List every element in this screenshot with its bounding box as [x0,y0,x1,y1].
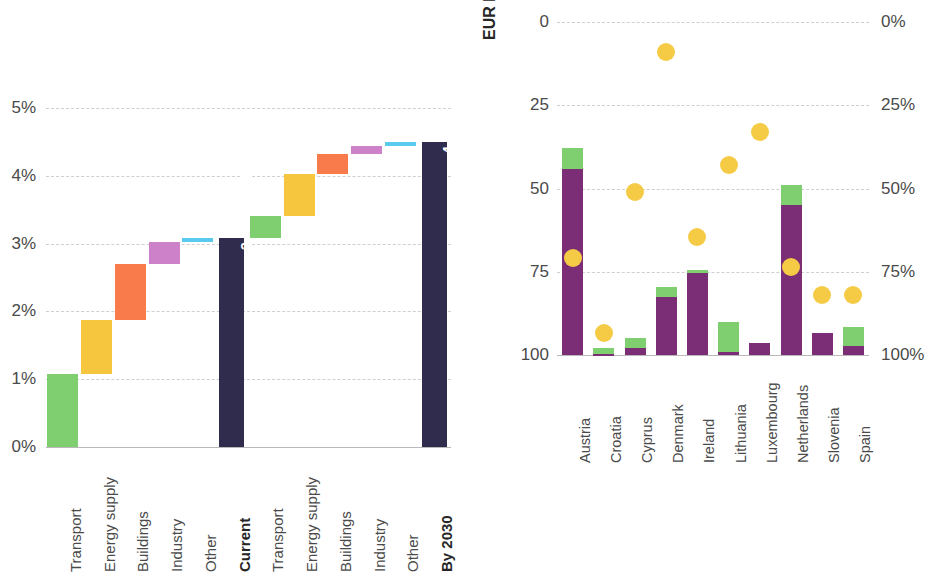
waterfall-y-tick: 5% [0,99,36,116]
waterfall-delta-bar [149,242,180,264]
waterfall-delta-bar [115,264,146,320]
waterfall-delta-bar [47,374,78,447]
right-chart-x-label-austria: Austria [578,418,593,463]
share-of-total-dot [564,249,582,267]
bar-segment-public-investment [656,297,677,355]
share-of-total-dot [751,123,769,141]
bar-segment-eu-funds [593,348,614,354]
waterfall-delta-bar [317,154,348,174]
waterfall-y-tick: 4% [0,167,36,184]
bar-segment-public-investment [812,333,833,355]
right-chart-right-tick: 50% [881,180,915,197]
waterfall-x-label-other: Other [203,534,218,572]
bar-segment-eu-funds [687,270,708,273]
share-of-total-dot [720,156,738,174]
share-of-total-dot [626,183,644,201]
right-chart-left-tick: 50 [497,180,549,197]
bar-segment-eu-funds [656,287,677,297]
right-chart-right-tick: 25% [881,96,915,113]
waterfall-x-label-buildings: Buildings [135,511,150,572]
right-chart-right-tick: 75% [881,263,915,280]
waterfall-x-label-transport: Transport [270,508,285,572]
waterfall-y-tick: 0% [0,438,36,455]
waterfall-delta-bar [385,142,416,146]
right-chart-x-label-netherlands: Netherlands [796,385,811,463]
share-of-total-dot [688,228,706,246]
right-chart-plot-area [557,22,869,355]
share-of-total-dot [844,286,862,304]
bar-segment-public-investment [718,352,739,355]
bar-segment-public-investment [781,205,802,355]
bar-segment-eu-funds [562,148,583,169]
right-chart-x-label-croatia: Croatia [609,416,624,463]
share-of-total-dot [782,258,800,276]
right-chart-x-label-ireland: Ireland [702,419,717,463]
waterfall-y-tick: 3% [0,235,36,252]
waterfall-x-label-transport: Transport [68,508,83,572]
bar-segment-public-investment [749,343,770,355]
share-of-total-dot [595,324,613,342]
bar-segment-public-investment [687,273,708,355]
waterfall-gridline [46,447,451,448]
bar-segment-eu-funds [843,327,864,346]
right-chart-x-label-denmark: Denmark [671,404,686,463]
waterfall-x-label-energy-supply: Energy supply [304,477,319,572]
right-chart-left-tick: 0 [497,13,549,30]
waterfall-delta-bar [351,146,382,154]
right-chart-left-tick: 100 [497,346,549,363]
waterfall-x-label-energy-supply: Energy supply [102,477,117,572]
bar-segment-eu-funds [718,322,739,351]
country-investment-chart-panel: EUR billion 1007550250 100%75%50%25%0% A… [475,0,950,581]
bar-segment-public-investment [625,348,646,355]
waterfall-x-label-current: Current [237,518,252,572]
waterfall-y-tick: 1% [0,370,36,387]
waterfall-chart-panel: 0%1%2%3%4%5% 3.1% of GDP4.5% of GDP Tran… [0,0,475,581]
right-chart-right-tick: 0% [881,13,906,30]
waterfall-delta-bar [284,174,315,216]
right-chart-x-label-slovenia: Slovenia [827,407,842,463]
waterfall-delta-bar [250,216,281,238]
waterfall-y-tick: 2% [0,302,36,319]
right-chart-left-tick: 25 [497,96,549,113]
right-chart-left-tick: 75 [497,263,549,280]
right-chart-x-label-cyprus: Cyprus [640,417,655,463]
right-chart-x-label-lithuania: Lithuania [734,404,749,463]
bar-segment-public-investment [593,354,614,356]
waterfall-total-value-label: 4.5% of GDP [440,68,456,153]
waterfall-x-label-industry: Industry [169,519,184,572]
waterfall-plot-area: 3.1% of GDP4.5% of GDP [46,108,451,447]
waterfall-x-label-industry: Industry [372,519,387,572]
share-of-total-dot [813,286,831,304]
waterfall-x-label-buildings: Buildings [338,511,353,572]
waterfall-delta-bar [182,238,213,242]
waterfall-delta-bar [81,320,112,374]
right-chart-x-label-luxembourg: Luxembourg [765,382,780,463]
waterfall-x-label-by-2030: By 2030 [439,515,454,572]
bar-segment-eu-funds [625,338,646,348]
right-chart-x-label-spain: Spain [858,426,873,463]
waterfall-total-bar [219,238,244,447]
share-of-total-dot [657,43,675,61]
waterfall-x-label-other: Other [405,534,420,572]
right-chart-right-tick: 100% [881,346,924,363]
bar-segment-public-investment [843,346,864,355]
bar-segment-eu-funds [781,185,802,206]
waterfall-total-bar [422,142,447,447]
